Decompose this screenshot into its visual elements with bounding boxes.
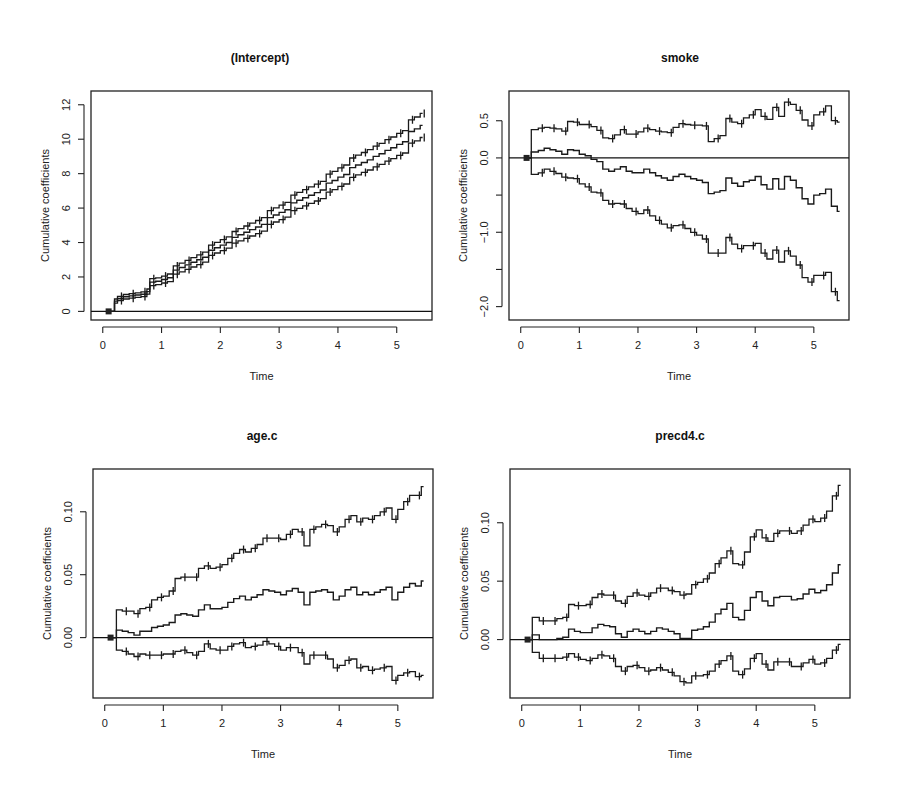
series-group <box>109 109 425 311</box>
y-tick-label: −2.0 <box>478 296 490 318</box>
panel-title: smoke <box>661 51 699 65</box>
lower-confidence-line <box>528 640 841 683</box>
x-tick-label: 2 <box>635 339 641 351</box>
estimate-line <box>528 565 841 640</box>
x-tick-label: 3 <box>278 717 284 729</box>
y-axis: 0.000.050.10 <box>62 501 86 648</box>
x-tick-label: 4 <box>336 717 342 729</box>
x-tick-label: 2 <box>636 717 642 729</box>
y-tick-label: 0.05 <box>62 564 74 585</box>
x-tick-label: 3 <box>695 717 701 729</box>
estimate-line <box>109 125 423 311</box>
x-tick-label: 5 <box>812 717 818 729</box>
panel-title: age.c <box>247 429 278 443</box>
panel-age-c: age.c Time Cumulative coefficients 01234… <box>41 429 433 760</box>
upper-confidence-line <box>528 485 841 639</box>
y-tick-label: 0.05 <box>479 570 491 591</box>
y-tick-label: 0 <box>60 308 72 314</box>
x-tick-label: 5 <box>394 339 400 351</box>
y-tick-label: 12 <box>60 99 72 111</box>
estimate-line <box>111 581 424 638</box>
x-axis-label: Time <box>667 370 691 382</box>
y-tick-label: 0.5 <box>478 113 490 128</box>
x-tick-label: 4 <box>752 339 758 351</box>
y-tick-label: 0.0 <box>478 150 490 165</box>
plot-frame <box>91 91 432 320</box>
x-tick-label: 3 <box>276 339 282 351</box>
y-tick-label: 0.00 <box>479 629 491 650</box>
plot-frame <box>93 469 433 698</box>
x-tick-label: 1 <box>158 339 164 351</box>
y-tick-label: −1.0 <box>478 221 490 243</box>
x-tick-label: 0 <box>519 717 525 729</box>
plot-frame <box>510 469 850 698</box>
y-tick-label: 0.10 <box>479 512 491 533</box>
x-tick-label: 0 <box>102 717 108 729</box>
x-tick-label: 1 <box>576 339 582 351</box>
x-tick-label: 2 <box>217 339 223 351</box>
panel-precd4-c: precd4.c Time Cumulative coefficients 01… <box>458 429 850 760</box>
x-tick-label: 0 <box>518 339 524 351</box>
series-group <box>528 485 841 685</box>
x-axis: 012345 <box>100 327 400 351</box>
series-group <box>527 98 840 301</box>
panel-intercept: (Intercept) Time Cumulative coefficients… <box>39 51 432 382</box>
x-axis: 012345 <box>519 705 818 729</box>
x-tick-label: 3 <box>694 339 700 351</box>
panel-title: precd4.c <box>655 429 705 443</box>
lower-confidence-line <box>527 158 840 301</box>
x-tick-label: 1 <box>160 717 166 729</box>
x-tick-label: 1 <box>577 717 583 729</box>
y-tick-label: 6 <box>60 205 72 211</box>
x-axis-label: Time <box>668 748 692 760</box>
y-axis-label: Cumulative coefficients <box>39 149 51 262</box>
upper-confidence-line <box>111 487 424 638</box>
origin-marker <box>524 155 530 161</box>
panel-title: (Intercept) <box>231 51 290 65</box>
series-group <box>111 487 424 685</box>
x-tick-label: 4 <box>753 717 759 729</box>
y-tick-label: 2 <box>60 274 72 280</box>
panel-smoke: smoke Time Cumulative coefficients 01234… <box>457 51 849 382</box>
y-axis: 0.50.0−1.0−2.0 <box>478 113 502 317</box>
y-axis-label: Cumulative coefficients <box>41 527 53 640</box>
y-axis: 0.000.050.10 <box>479 512 503 650</box>
x-axis-label: Time <box>251 748 275 760</box>
origin-marker <box>525 637 531 643</box>
x-axis-label: Time <box>249 370 273 382</box>
y-axis-label: Cumulative coefficients <box>457 149 469 262</box>
y-tick-label: 0.00 <box>62 627 74 648</box>
figure-canvas: (Intercept) Time Cumulative coefficients… <box>0 0 897 798</box>
y-axis: 024681012 <box>60 99 84 315</box>
y-tick-label: 4 <box>60 239 72 245</box>
x-tick-label: 0 <box>100 339 106 351</box>
y-tick-label: 8 <box>60 171 72 177</box>
y-axis-label: Cumulative coefficients <box>458 527 470 640</box>
x-tick-label: 2 <box>219 717 225 729</box>
origin-marker <box>106 308 112 314</box>
y-tick-label: 0.10 <box>62 501 74 522</box>
y-tick-label: 10 <box>60 133 72 145</box>
x-tick-label: 5 <box>395 717 401 729</box>
origin-marker <box>108 635 114 641</box>
x-axis: 012345 <box>518 327 817 351</box>
x-tick-label: 4 <box>335 339 341 351</box>
x-tick-label: 5 <box>811 339 817 351</box>
x-axis: 012345 <box>102 705 401 729</box>
